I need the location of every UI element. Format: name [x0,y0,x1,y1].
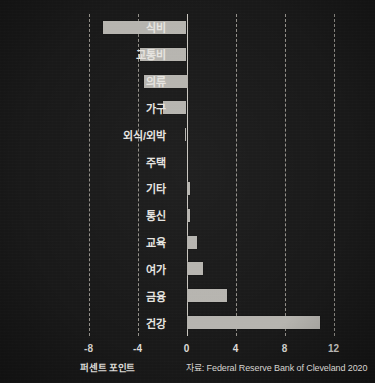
bar [185,128,186,141]
bar [187,262,204,275]
category-label: 의류 [0,73,166,89]
x-tick-label: -8 [84,343,93,354]
category-label: 가구 [0,100,166,116]
x-tick-label: 4 [233,343,239,354]
bar [163,101,186,114]
category-label: 교통비 [0,46,166,62]
bar [187,236,197,249]
category-label: 통신 [0,207,166,223]
x-tick-label: 8 [282,343,288,354]
category-label: 교육 [0,234,166,250]
x-gridline [334,14,335,336]
bar [187,182,190,195]
source-note: 자료: Federal Reserve Bank of Cleveland 20… [186,361,367,374]
x-gridline [285,14,286,336]
category-label: 외식/외박 [0,127,166,143]
x-tick-label: 12 [328,343,339,354]
bar [187,316,321,329]
bar-chart-plot-area: 식비교통비의류가구외식/외박주택기타통신교육여가금융건강-8-404812 [0,0,375,383]
bar [187,209,190,222]
category-label: 건강 [0,315,166,331]
x-tick-label: 0 [184,343,190,354]
category-label: 기타 [0,180,166,196]
category-label: 주택 [0,154,166,170]
category-label: 여가 [0,261,166,277]
category-label: 식비 [0,19,166,35]
x-tick-label: -4 [133,343,142,354]
bar [187,289,227,302]
x-gridline [236,14,237,336]
chart-screenshot: 식비교통비의류가구외식/외박주택기타통신교육여가금융건강-8-404812 퍼센… [0,0,375,383]
x-axis-title: 퍼센트 포인트 [80,360,135,374]
zero-axis-line [187,14,188,336]
category-label: 금융 [0,288,166,304]
